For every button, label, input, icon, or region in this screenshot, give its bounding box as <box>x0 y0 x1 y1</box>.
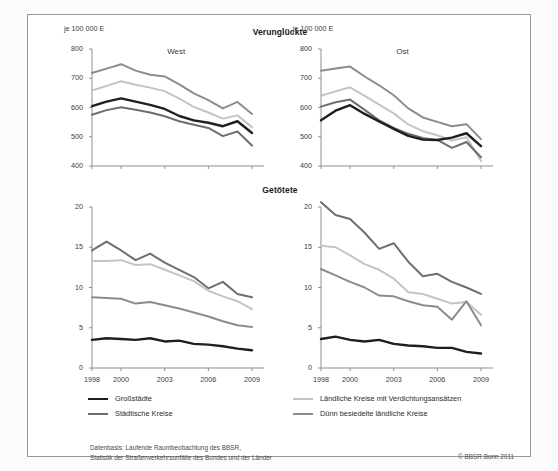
x-axis-tick-label: 1998 <box>308 375 334 384</box>
series-line <box>92 242 252 298</box>
y-axis-tick-label: 800 <box>59 44 83 53</box>
y-axis-tick-label: 10 <box>59 283 83 292</box>
legend-label: Ländliche Kreise mit Verdichtungsansätze… <box>320 394 461 404</box>
plot-area <box>321 49 495 168</box>
legend-swatch <box>293 398 313 400</box>
x-axis-tick-label: 2003 <box>381 375 407 384</box>
series-line <box>92 260 252 309</box>
legend-swatch <box>293 413 313 415</box>
y-axis-tick-label: 15 <box>288 242 312 251</box>
series-line <box>321 87 481 161</box>
legend-swatch <box>88 413 108 415</box>
y-axis-tick-label: 20 <box>59 202 83 211</box>
y-axis-tick-label: 700 <box>288 73 312 82</box>
legend-item: Städtische Kreise <box>88 409 173 419</box>
plot-area <box>92 49 266 168</box>
legend-item: Ländliche Kreise mit Verdichtungsansätze… <box>293 394 461 404</box>
axis-unit-label: je 100 000 E <box>293 24 333 33</box>
y-axis-tick-label: 10 <box>288 283 312 292</box>
y-axis-tick-label: 0 <box>288 363 312 372</box>
source-note-line2: Statistik der Straßenverkehrsunfälle des… <box>90 453 272 463</box>
y-axis-tick-label: 600 <box>59 103 83 112</box>
y-axis-tick-label: 800 <box>288 44 312 53</box>
chart-getotete-west: 0510152019982000200320062009 <box>92 207 252 392</box>
series-line <box>92 98 252 133</box>
y-axis-tick-label: 20 <box>288 202 312 211</box>
x-axis-tick-label: 2009 <box>239 375 265 384</box>
figure-page: Verunglückte Getötete je 100 000 EWest40… <box>0 0 558 471</box>
legend-item: Großstädte <box>88 394 152 404</box>
x-axis-tick-label: 2006 <box>424 375 450 384</box>
source-note-line1: Datenbasis: Laufende Raumbeobachtung des… <box>90 443 272 453</box>
y-axis-tick-label: 5 <box>59 323 83 332</box>
y-axis-tick-label: 700 <box>59 73 83 82</box>
y-axis-tick-label: 0 <box>59 363 83 372</box>
legend-label: Städtische Kreise <box>115 409 173 419</box>
x-axis-tick-label: 2000 <box>108 375 134 384</box>
chart-getotete-ost: 0510152019982000200320062009 <box>321 207 481 392</box>
y-axis-tick-label: 400 <box>288 161 312 170</box>
series-line <box>321 337 481 354</box>
x-axis-tick-label: 2003 <box>152 375 178 384</box>
copyright-note: © BBSR Bonn 2011 <box>458 452 514 462</box>
series-line <box>92 81 252 127</box>
x-axis-tick-label: 2000 <box>337 375 363 384</box>
x-axis-tick-label: 1998 <box>79 375 105 384</box>
series-line <box>321 269 481 325</box>
series-line <box>92 297 252 327</box>
x-axis-tick-label: 2009 <box>468 375 494 384</box>
legend-swatch <box>88 398 108 400</box>
legend-label: Großstädte <box>115 394 152 404</box>
y-axis-tick-label: 15 <box>59 242 83 251</box>
legend-label: Dünn besiedelte ländliche Kreise <box>320 409 428 419</box>
plot-area <box>92 207 266 370</box>
y-axis-tick-label: 400 <box>59 161 83 170</box>
series-line <box>92 64 252 114</box>
chart-legend: GroßstädteStädtische KreiseLändliche Kre… <box>88 394 508 424</box>
source-note: Datenbasis: Laufende Raumbeobachtung des… <box>90 443 272 462</box>
axis-unit-label: je 100 000 E <box>64 24 104 33</box>
y-axis-tick-label: 600 <box>288 103 312 112</box>
chart-verungluckte-ost: je 100 000 EOst400500600700800 <box>321 49 481 190</box>
plot-area <box>321 207 495 370</box>
x-axis-tick-label: 2006 <box>195 375 221 384</box>
figure-panel: Verunglückte Getötete je 100 000 EWest40… <box>27 14 531 457</box>
legend-item: Dünn besiedelte ländliche Kreise <box>293 409 428 419</box>
y-axis-tick-label: 500 <box>288 132 312 141</box>
series-line <box>321 67 481 140</box>
series-line <box>92 338 252 350</box>
y-axis-tick-label: 500 <box>59 132 83 141</box>
chart-verungluckte-west: je 100 000 EWest400500600700800 <box>92 49 252 190</box>
y-axis-tick-label: 5 <box>288 323 312 332</box>
